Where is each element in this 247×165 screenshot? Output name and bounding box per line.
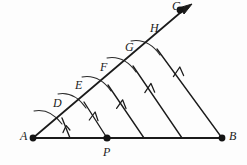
- point-dot-A: [30, 135, 37, 142]
- point-label-B: B: [229, 130, 236, 142]
- point-label-E: E: [75, 79, 82, 91]
- point-label-H: H: [150, 22, 159, 34]
- geometry-figure-svg: [0, 0, 247, 165]
- point-label-D: D: [53, 97, 62, 109]
- geometry-figure-canvas: A B C D E F G H P: [0, 0, 247, 165]
- point-label-C: C: [172, 0, 180, 12]
- point-label-F: F: [100, 61, 107, 73]
- point-dot-P: [103, 134, 110, 141]
- point-dot-B: [219, 135, 226, 142]
- point-label-A: A: [20, 130, 27, 142]
- point-label-G: G: [125, 41, 134, 53]
- point-label-P: P: [103, 146, 110, 158]
- figure-background: [0, 0, 247, 165]
